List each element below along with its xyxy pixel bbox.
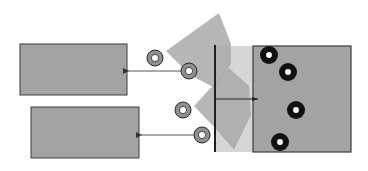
fan-layer [166, 13, 251, 150]
roller-1-hub-icon [151, 54, 158, 61]
diagram-svg [0, 0, 368, 171]
lower-output-box [31, 107, 139, 158]
roller-3-hub-icon [179, 106, 186, 113]
dot-2-center-icon [285, 69, 291, 75]
roller-4-hub-icon [198, 131, 205, 138]
dot-4-center-icon [277, 139, 283, 145]
roller-2-hub-icon [185, 67, 192, 74]
diagram-canvas [0, 0, 368, 171]
dot-3-center-icon [293, 107, 299, 113]
dot-1-center-icon [266, 52, 272, 58]
upper-output-box [20, 44, 127, 95]
